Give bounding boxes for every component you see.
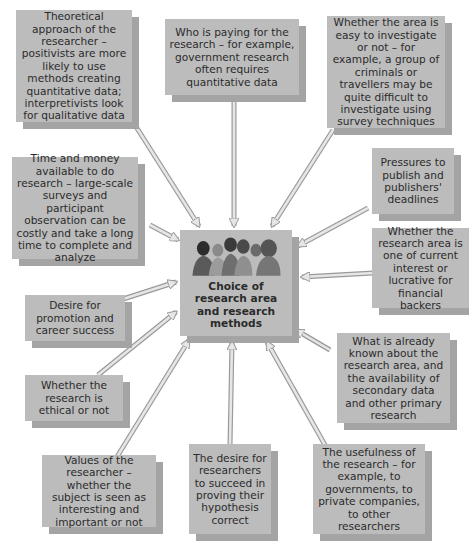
factor-ethical: Whether the research is ethical or not <box>25 375 123 421</box>
factor-text: Time and money available to do research … <box>16 152 134 264</box>
factor-text: Who is paying for the research – for exa… <box>169 26 295 88</box>
factor-values-of-researcher: Values of the researcher – whether the s… <box>42 455 156 527</box>
factor-pressures-to-publish: Pressures to publish and publishers' dea… <box>372 148 454 214</box>
factor-usefulness: The usefulness of the research – for exa… <box>313 444 425 534</box>
factor-easy-to-investigate: Whether the area is easy to investigate … <box>327 16 445 128</box>
factor-text: Whether the research area is one of curr… <box>376 225 465 312</box>
factor-desire-to-succeed: The desire for researchers to succeed in… <box>189 444 271 534</box>
factor-text: The usefulness of the research – for exa… <box>317 446 421 533</box>
factor-text: The desire for researchers to succeed in… <box>193 452 267 526</box>
factor-text: Desire for promotion and career success <box>29 299 121 336</box>
people-group-icon <box>186 232 286 276</box>
factor-who-is-paying: Who is paying for the research – for exa… <box>165 19 299 95</box>
factor-text: Pressures to publish and publishers' dea… <box>376 156 450 206</box>
factor-theoretical-approach: Theoretical approach of the researcher –… <box>16 10 132 122</box>
factor-desire-for-promotion: Desire for promotion and career success <box>25 295 125 341</box>
factor-text: Whether the area is easy to investigate … <box>331 16 441 128</box>
factor-current-interest: Whether the research area is one of curr… <box>372 228 469 308</box>
central-node-label: Choice of research area and research met… <box>184 280 288 330</box>
central-node: Choice of research area and research met… <box>180 230 292 336</box>
factor-time-and-money: Time and money available to do research … <box>12 157 138 259</box>
factor-already-known: What is already known about the research… <box>337 333 450 423</box>
factor-text: Whether the research is ethical or not <box>29 379 119 416</box>
factor-text: Values of the researcher – whether the s… <box>46 454 152 528</box>
factor-text: What is already known about the research… <box>341 335 446 422</box>
factor-text: Theoretical approach of the researcher –… <box>20 10 128 122</box>
